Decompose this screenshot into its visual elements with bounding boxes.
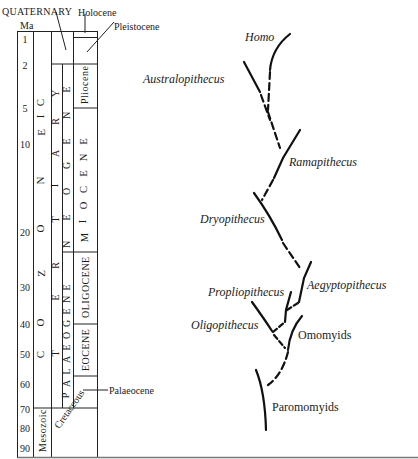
taxon-ramapithecus: Ramapithecus	[289, 157, 357, 168]
pleistocene-label: Pleistocene	[114, 21, 160, 32]
tick-40: 40	[17, 320, 33, 330]
taxon-omomyids: Omomyids	[298, 330, 351, 341]
eocene-label: EOCENE	[80, 329, 91, 371]
pliocene-label: Pliocene	[79, 66, 90, 104]
oligocene-label: OLIGOCENE	[80, 256, 91, 318]
taxon-propliopithecus: Propliopithecus	[208, 287, 284, 298]
miocene-label: M I O C E N E	[73, 108, 97, 252]
neogene-label: N E O G E N E	[62, 64, 73, 252]
tick-30: 30	[17, 283, 33, 293]
tick-60: 60	[17, 380, 33, 390]
taxon-oligopithecus: Oligopithecus	[191, 320, 258, 331]
quaternary-label: QUATERNARY	[2, 6, 72, 17]
taxon-dryopithecus: Dryopithecus	[200, 214, 265, 225]
holocene-label: Holocene	[78, 7, 116, 18]
tick-1: 1	[17, 35, 33, 45]
palaeogene-label: P A L A E O G E N E	[62, 252, 73, 408]
palaeocene-label: Palaeocene	[109, 385, 154, 396]
taxon-aegyptopithecus: Aegyptopithecus	[307, 280, 386, 291]
mesozoic-label: Mesozoic	[37, 409, 48, 452]
tick-10: 10	[17, 140, 33, 150]
tick-20: 20	[17, 228, 33, 238]
tick-70: 70	[17, 405, 33, 415]
figure-canvas: QUATERNARY Holocene Pleistocene Ma 1 2 5…	[0, 0, 418, 459]
tick-80: 80	[17, 424, 33, 434]
ma-axis-label: Ma	[20, 20, 33, 31]
cenozoic-era-label: C E N O Z O I C	[34, 31, 51, 408]
tick-2: 2	[17, 61, 33, 71]
tick-90: 90	[17, 444, 33, 454]
taxon-paromomyids: Paromomyids	[272, 402, 339, 413]
taxon-homo: Homo	[245, 32, 274, 43]
tick-50: 50	[17, 350, 33, 360]
taxon-australopithecus: Australopithecus	[143, 74, 224, 85]
tick-5: 5	[17, 104, 33, 114]
